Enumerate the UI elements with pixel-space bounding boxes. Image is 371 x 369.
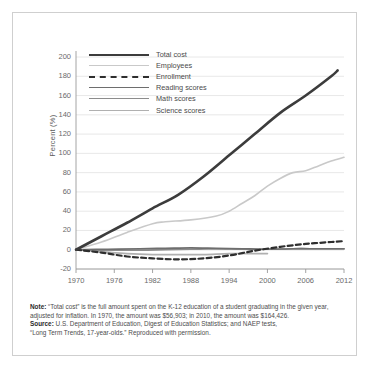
legend-swatch-line [89,87,149,88]
source-text-1: U.S. Department of Education, Digest of … [54,320,277,327]
y-tick-label: 160 [45,91,71,100]
x-tick-label: 2006 [289,276,323,285]
legend-swatch-line [89,76,149,78]
y-tick-label: 100 [45,148,71,157]
x-tick-label: 1994 [212,276,246,285]
legend-label: Enrollment [156,72,191,81]
y-tick-label: 0 [45,245,71,254]
x-tick-label: 1976 [97,276,131,285]
legend-item[interactable]: Total cost [89,49,207,60]
legend-swatch-line [89,98,149,99]
y-tick-label: 20 [45,225,71,234]
legend-label: Employees [156,61,192,70]
legend-item[interactable]: Reading scores [89,82,207,93]
y-tick-label: 40 [45,206,71,215]
y-tick-label: 120 [45,129,71,138]
source-line-2: “Long Term Trends, 17-year-olds.” Reprod… [30,329,346,338]
y-tick-label: 80 [45,168,71,177]
note-text-1: “Total cost” is the full amount spent on… [46,303,328,310]
x-tick-label: 1982 [136,276,170,285]
legend-swatch-line [89,110,149,111]
note-label: Note: [30,303,46,310]
y-tick-label: 140 [45,110,71,119]
legend-item[interactable]: Employees [89,60,207,71]
x-tick-label: 1970 [59,276,93,285]
note-line-1: Note: “Total cost” is the full amount sp… [30,303,346,312]
legend-item[interactable]: Math scores [89,93,207,104]
y-tick-label: 200 [45,52,71,61]
legend-label: Science scores [156,106,205,115]
legend-label: Total cost [156,50,187,59]
note-line-2: adjusted for inflation. In 1970, the amo… [30,312,346,321]
legend-item[interactable]: Science scores [89,104,207,115]
figure-notes: Note: “Total cost” is the full amount sp… [30,303,346,337]
chart-legend: Total costEmployeesEnrollmentReading sco… [89,49,207,116]
y-tick-label: 60 [45,187,71,196]
x-tick-label: 2000 [250,276,284,285]
source-label: Source: [30,320,54,327]
x-tick-label: 1988 [174,276,208,285]
legend-label: Math scores [156,94,196,103]
y-tick-label: -20 [45,264,71,273]
legend-swatch-line [89,65,149,66]
legend-item[interactable]: Enrollment [89,71,207,82]
legend-swatch-line [89,54,149,56]
figure-panel: Percent (%) 200180160140120100806040200-… [12,12,357,356]
y-tick-label: 180 [45,71,71,80]
legend-label: Reading scores [156,83,207,92]
x-tick-label: 2012 [327,276,361,285]
source-line-1: Source: U.S. Department of Education, Di… [30,320,346,329]
